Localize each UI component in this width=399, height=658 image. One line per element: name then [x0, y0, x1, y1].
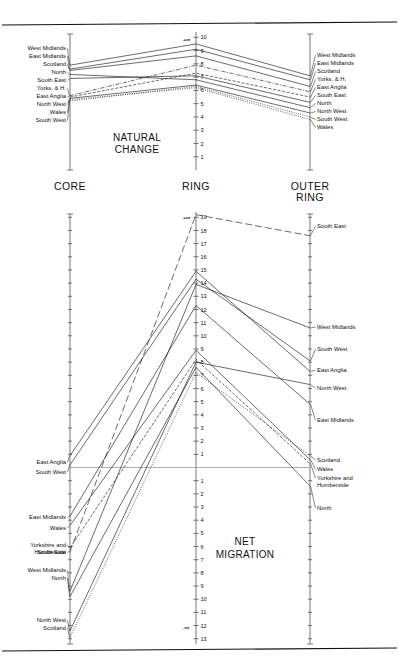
slope-chart-svg: 12345678910+veWest MidlandsEast Midlands…: [0, 0, 399, 658]
top-rule: [2, 22, 397, 25]
y-tick-label-net-migration: 1: [201, 451, 204, 457]
positive-polarity-label-net-migration: +ve: [183, 215, 191, 220]
y-tick-label-net-migration: 6: [201, 544, 204, 550]
zone-label-core: CORE: [54, 180, 86, 192]
left-label-net-migration-6: West Midlands: [27, 567, 66, 573]
y-tick-label-net-migration: 15: [201, 267, 207, 273]
left-label-net-migration-0: East Anglia: [37, 459, 67, 465]
y-tick-label-natural-change: 5: [201, 101, 204, 107]
series-line-south-west: [70, 86, 310, 117]
series-line-nm-south-west: [70, 279, 310, 465]
figure-container: 12345678910+veWest MidlandsEast Midlands…: [0, 0, 399, 658]
series-line-yorks-h-: [70, 65, 310, 96]
right-label-natural-change-5: South East: [317, 92, 346, 98]
left-label-natural-change-3: North: [52, 69, 66, 75]
right-label-natural-change-4: East Anglia: [317, 84, 347, 90]
panel-title-natural-change-line1: NATURAL: [113, 132, 161, 143]
right-label-natural-change-0: West Midlands: [317, 52, 356, 58]
left-label-natural-change-8: Wales: [50, 109, 66, 115]
series-line-north: [70, 74, 310, 107]
leader-right-natural-change-9: [311, 120, 316, 128]
y-tick-label-natural-change: 1: [201, 154, 204, 160]
left-label-net-migration-5: South East: [37, 549, 66, 555]
right-label-net-migration-9: North: [317, 505, 331, 511]
y-tick-label-net-migration: 18: [201, 228, 207, 234]
leader-right-net-migration-1: [311, 327, 316, 328]
left-label-natural-change-2: Scotland: [43, 61, 66, 67]
negative-polarity-label-net-migration: -ve: [183, 625, 190, 630]
series-line-nm-south-east: [70, 215, 310, 552]
left-label-net-migration-1: South West: [36, 469, 67, 475]
right-label-net-migration-4: North West: [317, 385, 347, 391]
series-line-west-midlands: [70, 44, 310, 76]
right-label-net-migration-3: East Anglia: [317, 367, 347, 373]
leader-right-net-migration-0: [311, 226, 316, 236]
left-label-natural-change-1: East Midlands: [29, 53, 66, 59]
y-tick-label-net-migration: 16: [201, 254, 207, 260]
right-label-natural-change-9: Wales: [317, 124, 333, 130]
y-tick-label-net-migration: 17: [201, 241, 207, 247]
left-label-natural-change-9: South West: [36, 117, 67, 123]
y-tick-label-net-migration: 3: [201, 425, 204, 431]
y-tick-label-net-migration: 5: [201, 399, 204, 405]
right-label-natural-change-3: Yorks. & H.: [317, 76, 347, 82]
leader-right-natural-change-6: [311, 104, 316, 108]
left-label-natural-change-6: East Anglia: [37, 93, 67, 99]
left-label-natural-change-0: West Midlands: [27, 45, 66, 51]
y-tick-label-natural-change: 2: [201, 141, 204, 147]
right-label-net-migration-1: West Midlands: [317, 324, 356, 330]
leader-right-net-migration-9: [311, 486, 316, 508]
series-line-wales: [70, 88, 310, 120]
series-line-nm-wales: [70, 350, 310, 525]
y-tick-label-net-migration: 2: [201, 491, 204, 497]
leader-right-net-migration-6: [311, 456, 316, 461]
y-tick-label-net-migration: 11: [201, 320, 207, 326]
leader-left-natural-change-4: [68, 78, 70, 80]
leader-right-net-migration-4: [311, 385, 316, 389]
y-tick-label-natural-change: 4: [201, 114, 204, 120]
y-tick-label-net-migration: 1: [201, 478, 204, 484]
series-line-scotland: [70, 56, 310, 87]
right-label-natural-change-8: South West: [317, 116, 348, 122]
y-tick-label-net-migration: 5: [201, 530, 204, 536]
y-tick-label-net-migration: 12: [201, 623, 207, 629]
leader-left-net-migration-3: [68, 525, 70, 528]
leader-right-natural-change-4: [311, 87, 316, 97]
series-line-east-midlands: [70, 49, 310, 80]
panel-title-net-migration-line1: NET: [235, 536, 256, 547]
left-label-natural-change-7: North West: [37, 101, 67, 107]
right-label-net-migration-8-line1: Yorkshire and: [317, 475, 353, 481]
y-tick-label-net-migration: 9: [201, 583, 204, 589]
panel-title-net-migration-line2: MIGRATION: [216, 549, 275, 560]
left-label-natural-change-5: Yorks. & H.: [37, 85, 67, 91]
left-label-net-migration-2: East Midlands: [29, 514, 66, 520]
right-label-net-migration-7: Wales: [317, 466, 333, 472]
series-line-nm-yorkshire-and-humberside: [70, 360, 310, 548]
leader-right-net-migration-5: [311, 404, 316, 420]
y-tick-label-net-migration: 10: [201, 333, 207, 339]
panel-title-natural-change-line2: CHANGE: [115, 144, 160, 155]
leader-left-natural-change-3: [68, 72, 70, 74]
left-label-natural-change-4: South East: [37, 77, 66, 83]
leader-right-net-migration-3: [311, 370, 316, 371]
left-label-net-migration-3: Wales: [50, 525, 66, 531]
y-tick-label-net-migration: 6: [201, 386, 204, 392]
right-label-natural-change-1: East Midlands: [317, 60, 354, 66]
leader-right-natural-change-8: [311, 117, 316, 120]
leader-left-natural-change-5: [68, 88, 70, 95]
y-tick-label-net-migration: 11: [201, 609, 207, 615]
y-tick-label-net-migration: 9: [201, 346, 204, 352]
leader-left-net-migration-2: [68, 516, 70, 517]
right-label-net-migration-5: East Midlands: [317, 417, 354, 423]
leader-right-natural-change-7: [311, 112, 316, 113]
y-tick-label-net-migration: 12: [201, 307, 207, 313]
leader-left-net-migration-0: [68, 456, 70, 463]
y-tick-label-net-migration: 13: [201, 293, 207, 299]
y-tick-label-net-migration: 2: [201, 438, 204, 444]
left-label-net-migration-8: North West: [37, 617, 67, 623]
y-tick-label-net-migration: 4: [201, 412, 204, 418]
series-line-nm-east-midlands: [70, 306, 310, 517]
positive-polarity-label-natural-change: +ve: [183, 37, 191, 42]
right-label-net-migration-6: Scotland: [317, 457, 340, 463]
y-tick-label-net-migration: 13: [201, 636, 207, 642]
